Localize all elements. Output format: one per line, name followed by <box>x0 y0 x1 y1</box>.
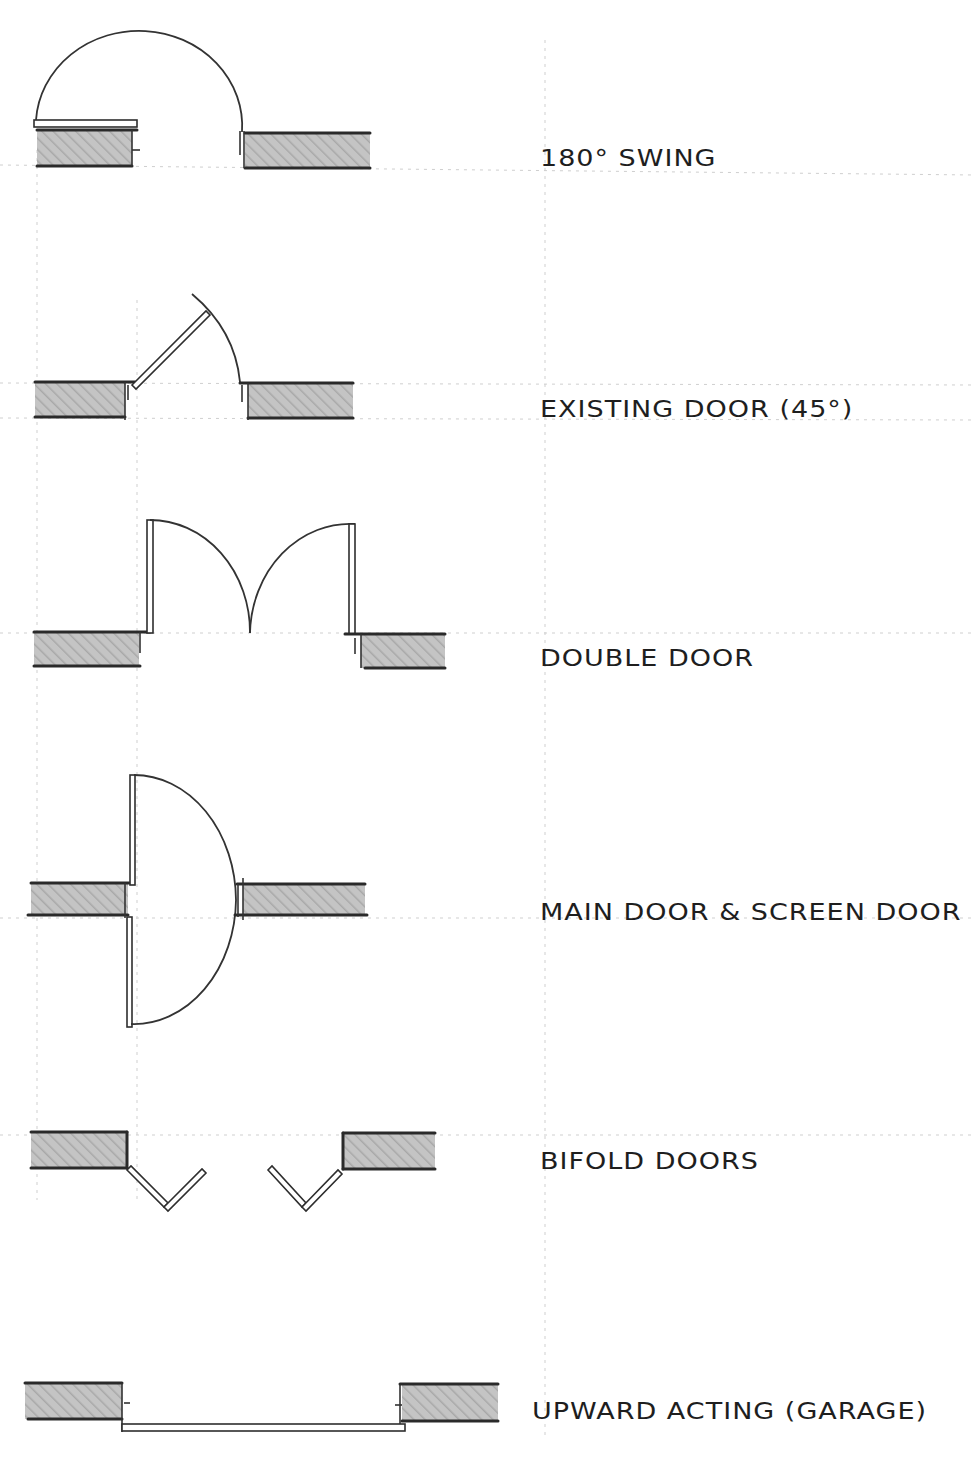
label-bifold-doors: BIFOLD DOORS <box>540 1147 759 1173</box>
symbol-main-and-screen-door <box>28 775 367 1027</box>
guide-lines <box>0 40 975 1440</box>
label-main-screen-door: MAIN DOOR & SCREEN DOOR <box>540 898 962 924</box>
symbol-bifold-doors <box>31 1132 435 1211</box>
label-existing-door: EXISTING DOOR (45°) <box>540 395 853 421</box>
label-garage-door: UPWARD ACTING (GARAGE) <box>532 1397 927 1423</box>
symbol-existing-door-45 <box>35 294 353 420</box>
label-double-door: DOUBLE DOOR <box>540 644 754 670</box>
door-symbols-diagram <box>0 0 975 1457</box>
label-180-swing: 180° SWING <box>540 144 717 170</box>
symbol-180-swing <box>34 31 370 168</box>
symbol-upward-acting-garage <box>25 1383 498 1432</box>
symbol-double-door <box>34 520 445 668</box>
